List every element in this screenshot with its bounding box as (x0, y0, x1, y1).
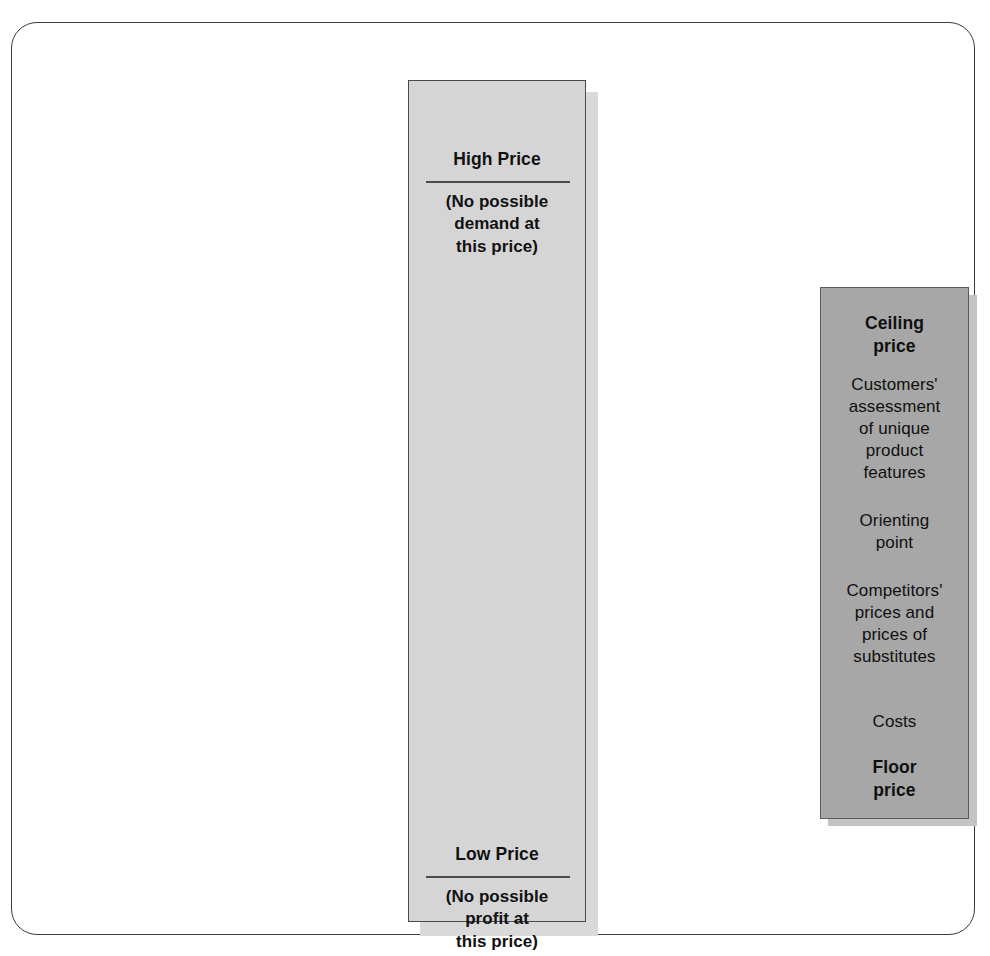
low-price-note-line-3: this price) (409, 931, 585, 953)
costs-line-1: Costs (821, 711, 968, 733)
customers-assessment-line-3: of unique (821, 418, 968, 440)
price-considerations-box: Ceiling price Customers' assessment of u… (820, 287, 969, 819)
competitors-prices-line-1: Competitors' (821, 580, 968, 602)
floor-price-line-2: price (821, 779, 968, 802)
high-price-label: High Price (409, 149, 585, 170)
low-price-note-line-2: profit at (409, 908, 585, 930)
competitors-prices-line-4: substitutes (821, 646, 968, 668)
costs-item: Costs (821, 711, 968, 733)
high-price-note-line-2: demand at (409, 213, 585, 235)
low-price-label: Low Price (409, 844, 585, 865)
customers-assessment-line-2: assessment (821, 396, 968, 418)
orienting-point-line-1: Orienting (821, 510, 968, 532)
low-price-note-line-1: (No possible (409, 886, 585, 908)
customers-assessment-line-5: features (821, 462, 968, 484)
orienting-point-item: Orienting point (821, 510, 968, 554)
price-band: High Price (No possible demand at this p… (408, 80, 586, 922)
competitors-prices-line-2: prices and (821, 602, 968, 624)
competitors-prices-item: Competitors' prices and prices of substi… (821, 580, 968, 668)
customers-assessment-item: Customers' assessment of unique product … (821, 374, 968, 484)
low-price-divider (426, 876, 570, 878)
low-price-note: (No possible profit at this price) (409, 886, 585, 953)
orienting-point-line-2: point (821, 532, 968, 554)
floor-price-line-1: Floor (821, 756, 968, 779)
high-price-note: (No possible demand at this price) (409, 191, 585, 258)
customers-assessment-line-1: Customers' (821, 374, 968, 396)
figure-frame: High Price (No possible demand at this p… (11, 22, 975, 935)
high-price-note-line-1: (No possible (409, 191, 585, 213)
customers-assessment-line-4: product (821, 440, 968, 462)
ceiling-price-line-1: Ceiling (821, 312, 968, 335)
ceiling-price-line-2: price (821, 335, 968, 358)
ceiling-price-item: Ceiling price (821, 312, 968, 358)
floor-price-item: Floor price (821, 756, 968, 802)
competitors-prices-line-3: prices of (821, 624, 968, 646)
high-price-note-line-3: this price) (409, 236, 585, 258)
high-price-divider (426, 181, 570, 183)
